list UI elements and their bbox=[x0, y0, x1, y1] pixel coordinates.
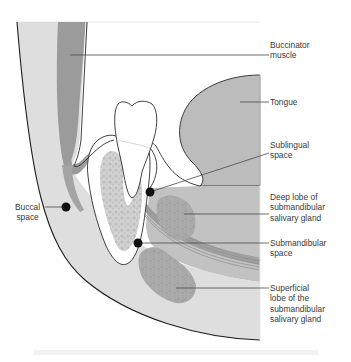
caption-band bbox=[34, 350, 318, 355]
submandibular-space-dot bbox=[134, 239, 143, 248]
buccal-space-dot bbox=[62, 203, 71, 212]
label-superficial-lobe: Superficial lobe of the submandibular sa… bbox=[270, 283, 325, 324]
sublingual-space-dot bbox=[146, 188, 155, 197]
anatomy-diagram: Buccinator muscle Tongue Sublingual spac… bbox=[0, 0, 351, 362]
label-deep-lobe: Deep lobe of submandibular salivary glan… bbox=[270, 192, 325, 223]
label-submandibular-space: Submandibular space bbox=[270, 238, 326, 259]
label-buccinator-muscle: Buccinator muscle bbox=[270, 40, 310, 61]
label-buccal-space: Buccal space bbox=[15, 202, 40, 223]
label-sublingual-space: Sublingual space bbox=[270, 140, 309, 161]
label-tongue: Tongue bbox=[270, 97, 297, 107]
